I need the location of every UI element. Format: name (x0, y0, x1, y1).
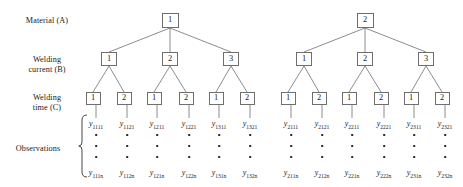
edge-l2-l3-6 (288, 66, 304, 92)
ellipsis-dot-6-1 (290, 145, 292, 147)
ellipsis-dot-10-2 (413, 156, 415, 158)
tree-node-lvl2-5[interactable]: 3 (418, 52, 434, 66)
ellipsis-dot-11-1 (444, 145, 446, 147)
tree-node-lvl2-0[interactable]: 1 (101, 52, 117, 66)
ellipsis-dot-0-1 (95, 145, 97, 147)
tree-node-lvl3-7[interactable]: 2 (312, 92, 327, 105)
observation-first-9: y2221 (377, 120, 392, 128)
ellipsis-dot-4-0 (218, 134, 220, 136)
edge-l2-l3-0 (93, 66, 109, 92)
brace-path (79, 115, 87, 177)
ellipsis-dot-10-1 (413, 145, 415, 147)
tree-node-lvl3-0[interactable]: 1 (86, 92, 101, 105)
edge-l1-l2-2 (170, 28, 231, 52)
obs-subscript: 1121 (123, 124, 134, 130)
obs-subscript: 212n (318, 173, 329, 179)
tree-node-lvl2-2[interactable]: 3 (223, 52, 239, 66)
obs-subscript: 2221 (380, 124, 391, 130)
edge-l1-l2-0 (109, 28, 170, 52)
obs-subscript: 1111 (92, 124, 103, 130)
ellipsis-dot-8-2 (351, 156, 353, 158)
ellipsis-dot-8-1 (351, 145, 353, 147)
edge-l1-l2-5 (365, 28, 426, 52)
observation-first-0: y1111 (89, 120, 103, 128)
row-label-welding-current: Welding current (B) (0, 55, 94, 74)
tree-node-lvl3-9[interactable]: 2 (374, 92, 389, 105)
ellipsis-dot-1-1 (126, 145, 128, 147)
tree-node-lvl3-2[interactable]: 1 (147, 92, 162, 105)
obs-subscript: 2311 (410, 124, 421, 130)
edge-l2-l3-7 (304, 66, 319, 92)
ellipsis-dot-10-0 (413, 134, 415, 136)
obs-subscript: 1311 (215, 124, 226, 130)
tree-node-lvl3-4[interactable]: 1 (209, 92, 224, 105)
obs-subscript: 2111 (287, 124, 298, 130)
observation-last-3: y122n (182, 169, 197, 177)
tree-node-lvl1-1[interactable]: 2 (357, 13, 374, 28)
observation-first-5: y1321 (243, 120, 258, 128)
obs-subscript: 132n (246, 173, 257, 179)
tree-node-lvl3-8[interactable]: 1 (342, 92, 357, 105)
observation-last-9: y222n (377, 169, 392, 177)
obs-subscript: 111n (92, 173, 103, 179)
obs-subscript: 222n (380, 173, 391, 179)
ellipsis-dot-2-0 (156, 134, 158, 136)
ellipsis-dot-7-1 (321, 145, 323, 147)
obs-subscript: 232n (441, 173, 452, 179)
row-label-material: Material (A) (0, 16, 94, 26)
row-label-observations: Observations (0, 144, 76, 154)
observation-last-7: y212n (315, 169, 330, 177)
tree-node-lvl3-6[interactable]: 1 (281, 92, 296, 105)
tree-node-lvl2-1[interactable]: 2 (162, 52, 178, 66)
row-label-welding-time: Welding time (C) (0, 93, 94, 112)
tree-node-lvl2-3[interactable]: 1 (296, 52, 312, 66)
tree-node-lvl3-10[interactable]: 1 (404, 92, 419, 105)
ellipsis-dot-0-2 (95, 156, 97, 158)
ellipsis-dot-2-1 (156, 145, 158, 147)
edge-l2-l3-1 (109, 66, 124, 92)
tree-node-lvl3-11[interactable]: 2 (435, 92, 450, 105)
ellipsis-dot-3-0 (188, 134, 190, 136)
observation-last-2: y121n (150, 169, 165, 177)
ellipsis-dot-6-2 (290, 156, 292, 158)
ellipsis-dot-3-1 (188, 145, 190, 147)
obs-subscript: 1211 (153, 124, 164, 130)
ellipsis-dot-1-0 (126, 134, 128, 136)
figure-canvas: Material (A)Welding current (B)Welding t… (0, 0, 463, 187)
obs-subscript: 1221 (185, 124, 196, 130)
edge-l2-l3-4 (216, 66, 231, 92)
tree-node-lvl1-0[interactable]: 1 (162, 13, 179, 28)
tree-node-lvl3-3[interactable]: 2 (179, 92, 194, 105)
ellipsis-dot-5-1 (249, 145, 251, 147)
obs-subscript: 2121 (318, 124, 329, 130)
edge-l1-l2-3 (304, 28, 365, 52)
edge-l2-l3-9 (365, 66, 381, 92)
observation-last-4: y131n (212, 169, 227, 177)
obs-subscript: 1321 (246, 124, 257, 130)
observation-first-10: y2311 (407, 120, 422, 128)
ellipsis-dot-1-2 (126, 156, 128, 158)
observation-first-3: y1221 (182, 120, 197, 128)
observation-first-7: y2121 (315, 120, 330, 128)
obs-subscript: 231n (410, 173, 421, 179)
obs-subscript: 2321 (441, 124, 452, 130)
edge-l2-l3-11 (426, 66, 442, 92)
tree-node-lvl3-1[interactable]: 2 (117, 92, 132, 105)
edge-l2-l3-5 (231, 66, 247, 92)
obs-subscript: 121n (153, 173, 164, 179)
obs-subscript: 112n (123, 173, 134, 179)
ellipsis-dot-6-0 (290, 134, 292, 136)
ellipsis-dot-5-0 (249, 134, 251, 136)
ellipsis-dot-8-0 (351, 134, 353, 136)
ellipsis-dot-3-2 (188, 156, 190, 158)
ellipsis-dot-9-1 (383, 145, 385, 147)
observation-first-11: y2321 (438, 120, 453, 128)
observation-last-6: y211n (284, 169, 299, 177)
tree-node-lvl3-5[interactable]: 2 (240, 92, 255, 105)
observation-first-1: y1121 (120, 120, 135, 128)
observation-first-4: y1311 (212, 120, 227, 128)
tree-node-lvl2-4[interactable]: 2 (357, 52, 373, 66)
edge-l2-l3-10 (411, 66, 426, 92)
observations-brace (78, 114, 90, 178)
ellipsis-dot-0-0 (95, 134, 97, 136)
